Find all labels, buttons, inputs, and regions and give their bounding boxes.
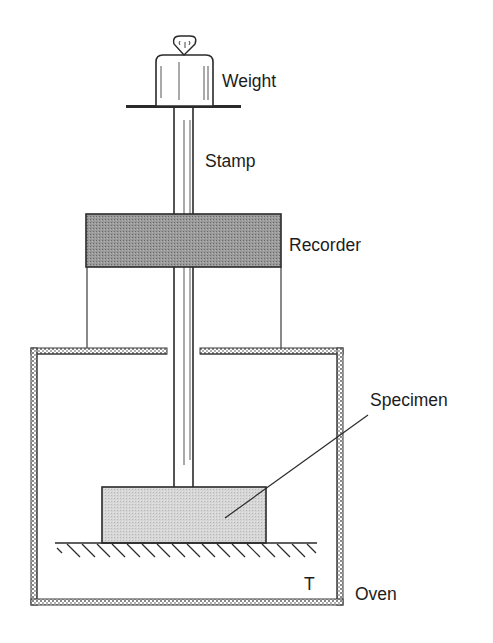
- oven: [31, 348, 343, 605]
- creep-apparatus-diagram: Weight Stamp Recorder Specimen T Oven: [0, 0, 493, 643]
- label-oven: Oven: [355, 584, 397, 604]
- stamp-rod: [174, 108, 193, 487]
- label-recorder: Recorder: [289, 235, 361, 255]
- specimen-leader-line: [225, 415, 368, 518]
- label-stamp: Stamp: [205, 151, 256, 171]
- label-specimen: Specimen: [370, 390, 448, 410]
- label-temperature: T: [304, 574, 315, 594]
- recorder-block: [86, 214, 281, 267]
- specimen-block: [102, 487, 266, 543]
- label-weight: Weight: [222, 71, 276, 91]
- ground-support: [55, 543, 317, 557]
